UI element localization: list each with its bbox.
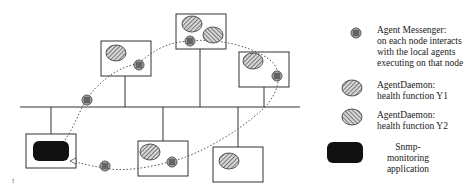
legend-item-agentdaemon-y2: AgentDaemon: health function Y2 bbox=[377, 110, 448, 132]
legend-agentdaemon-y1-icon bbox=[342, 80, 362, 96]
agentdaemon-y2-icon bbox=[203, 27, 223, 43]
agentdaemon-y1-icon bbox=[140, 144, 160, 160]
legend-desc: on each node interacts bbox=[377, 36, 463, 47]
agent-messenger-icon bbox=[82, 95, 92, 105]
legend-item-agentdaemon-y1: AgentDaemon: health function Y1 bbox=[377, 80, 448, 102]
footnote-mark: ! bbox=[12, 176, 14, 187]
agent-messenger-icon bbox=[272, 71, 282, 81]
legend-agentdaemon-y2-icon bbox=[342, 109, 362, 125]
legend-label: Agent Messenger: bbox=[377, 25, 463, 36]
legend-item-snmp-app: Snmp-monitoring application bbox=[377, 142, 439, 175]
agent-messenger-icon bbox=[100, 161, 110, 171]
legend-desc: with the local agents bbox=[377, 47, 463, 58]
legend-snmp-app-icon bbox=[327, 142, 363, 163]
agentdaemon-y1-icon bbox=[106, 45, 126, 61]
legend-item-agent-messenger: Agent Messenger: on each node interacts … bbox=[377, 25, 463, 69]
agentdaemon-y1-icon bbox=[219, 153, 239, 169]
agentdaemon-y1-icon bbox=[243, 53, 263, 69]
legend-desc: executing on that node bbox=[377, 58, 463, 69]
agent-messenger-icon bbox=[134, 60, 144, 70]
legend-label: AgentDaemon: bbox=[377, 80, 448, 91]
legend-label: Snmp-monitoring bbox=[377, 142, 439, 164]
legend-label: AgentDaemon: bbox=[377, 110, 448, 121]
agent-messenger-icon bbox=[185, 36, 195, 46]
legend-desc: application bbox=[377, 164, 439, 175]
legend-agent-messenger-icon bbox=[351, 28, 361, 38]
legend-desc: health function Y1 bbox=[377, 91, 448, 102]
agentdaemon-y1-icon bbox=[182, 16, 202, 32]
snmp-app-shape bbox=[33, 141, 69, 161]
agent-messenger-icon bbox=[167, 157, 177, 167]
legend-desc: health function Y2 bbox=[377, 121, 448, 132]
